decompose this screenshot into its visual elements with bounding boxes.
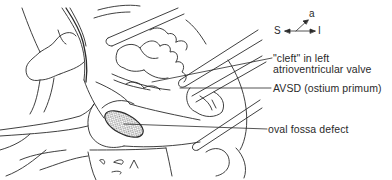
orientation-compass: [285, 20, 315, 33]
compass-label-superior: S: [274, 25, 281, 36]
label-avsd: AVSD (ostium primum): [273, 83, 382, 94]
right-retractors: [178, 30, 266, 102]
lower-retractor: [192, 100, 262, 178]
upper-retractor: [106, 8, 184, 46]
label-cleft-line-2: atrioventricular valve: [273, 64, 372, 75]
leader-line-oval-fossa: [124, 124, 267, 129]
leader-line-cleft: [152, 58, 272, 82]
label-oval-fossa-line-1: oval fossa defect: [268, 124, 349, 135]
left-vessel-drawing: [22, 5, 140, 118]
compass-label-anterior: a: [309, 8, 315, 19]
atrial-septum: [0, 82, 200, 180]
label-oval-fossa: oval fossa defect: [268, 124, 349, 135]
label-cleft: "cleft" in left atrioventricular valve: [273, 53, 372, 75]
label-avsd-line-1: AVSD (ostium primum): [273, 83, 382, 94]
compass-label-inferior: I: [318, 25, 321, 36]
